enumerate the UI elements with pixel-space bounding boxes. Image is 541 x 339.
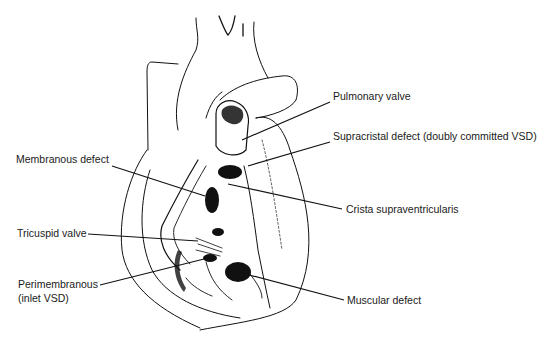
label-membranous-defect: Membranous defect [16, 153, 109, 166]
leader-pulmonary-valve [242, 102, 330, 140]
leader-perimembranous [100, 258, 208, 285]
label-muscular-defect: Muscular defect [347, 294, 421, 307]
leader-muscular-defect [238, 272, 344, 300]
label-pulmonary-valve: Pulmonary valve [333, 90, 411, 103]
label-supracristal-defect: Supracristal defect (doubly committed VS… [333, 130, 537, 143]
label-tricuspid-valve: Tricuspid valve [17, 227, 87, 240]
label-crista-supraventricularis: Crista supraventricularis [346, 203, 459, 216]
leader-crista-supraventricularis [228, 184, 342, 209]
label-perimembranous: Perimembranous [18, 278, 98, 291]
label-perimembranous-inlet: (inlet VSD) [18, 292, 69, 305]
leader-membranous-defect [112, 166, 205, 196]
vsd-heart-diagram: Pulmonary valve Supracristal defect (dou… [0, 0, 541, 339]
